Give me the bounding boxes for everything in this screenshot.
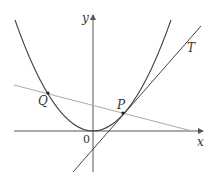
origin-label: 0 (83, 134, 90, 145)
x-axis-label: x (197, 136, 204, 148)
secant-line (14, 85, 192, 131)
diagram: y x 0 P Q T (0, 0, 216, 185)
y-axis-label: y (82, 12, 89, 24)
tangent-line (73, 26, 201, 172)
tangent-label: T (187, 42, 195, 54)
point-q-label: Q (38, 95, 48, 107)
point-p-label: P (117, 99, 125, 111)
diagram-canvas (0, 0, 216, 185)
